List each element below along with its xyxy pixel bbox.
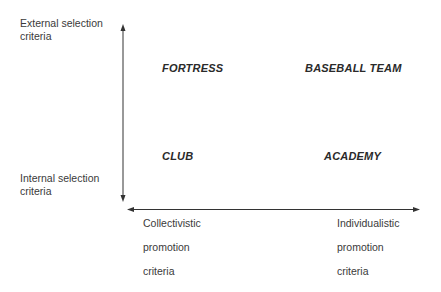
x-left-line-2: promotion [143, 241, 201, 265]
y-axis-bottom-label: Internal selection criteria [20, 172, 99, 198]
x-axis-right-label: Individualistic promotion criteria [337, 217, 399, 278]
y-bottom-line-2: criteria [20, 185, 99, 198]
quadrant-baseball-team: BASEBALL TEAM [305, 62, 402, 74]
x-axis-left-label: Collectivistic promotion criteria [143, 217, 201, 278]
y-axis-arrow [121, 24, 126, 202]
quadrant-fortress: FORTRESS [162, 62, 223, 74]
y-bottom-line-1: Internal selection [20, 172, 99, 185]
x-right-line-3: criteria [337, 265, 399, 278]
quadrant-academy: ACADEMY [324, 150, 381, 162]
quadrant-club: CLUB [162, 150, 193, 162]
y-axis-top-label: External selection criteria [20, 17, 103, 43]
y-top-line-2: criteria [20, 30, 103, 43]
x-axis-arrow [127, 207, 420, 212]
x-right-line-2: promotion [337, 241, 399, 265]
x-right-line-1: Individualistic [337, 217, 399, 241]
y-top-line-1: External selection [20, 17, 103, 30]
x-left-line-1: Collectivistic [143, 217, 201, 241]
x-left-line-3: criteria [143, 265, 201, 278]
